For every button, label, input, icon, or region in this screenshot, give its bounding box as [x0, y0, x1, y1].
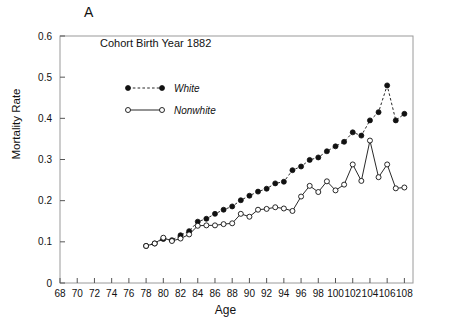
y-tick-label: 0.5 — [38, 72, 52, 83]
data-point-nonwhite — [247, 214, 252, 219]
legend-marker-white — [160, 86, 165, 91]
data-point-nonwhite — [169, 239, 174, 244]
x-tick-label: 104 — [362, 288, 379, 299]
data-point-white — [402, 111, 407, 116]
y-tick-label: 0.2 — [38, 195, 52, 206]
data-point-nonwhite — [178, 236, 183, 241]
x-tick-label: 92 — [261, 288, 273, 299]
data-point-white — [290, 168, 295, 173]
data-point-nonwhite — [195, 223, 200, 228]
x-tick-label: 94 — [278, 288, 290, 299]
x-tick-label: 90 — [244, 288, 256, 299]
x-tick-label: 78 — [141, 288, 153, 299]
series-nonwhite — [144, 138, 407, 248]
x-tick-label: 84 — [192, 288, 204, 299]
data-point-nonwhite — [161, 235, 166, 240]
data-point-nonwhite — [342, 182, 347, 187]
data-point-white — [281, 179, 286, 184]
data-point-white — [376, 110, 381, 115]
data-point-white — [324, 149, 329, 154]
data-point-nonwhite — [204, 223, 209, 228]
data-point-nonwhite — [212, 223, 217, 228]
x-tick-label: 70 — [72, 288, 84, 299]
x-tick-label: 106 — [379, 288, 396, 299]
data-point-white — [333, 144, 338, 149]
x-tick-label: 98 — [313, 288, 325, 299]
data-point-nonwhite — [333, 188, 338, 193]
data-point-nonwhite — [307, 183, 312, 188]
legend-marker-white — [126, 86, 131, 91]
data-point-nonwhite — [367, 138, 372, 143]
data-point-white — [359, 133, 364, 138]
data-point-nonwhite — [316, 190, 321, 195]
x-tick-label: 68 — [54, 288, 66, 299]
data-point-nonwhite — [230, 221, 235, 226]
data-point-white — [350, 130, 355, 135]
data-point-white — [247, 193, 252, 198]
data-point-nonwhite — [281, 206, 286, 211]
figure-panel-a: A Cohort Birth Year 1882 Mortality Rate … — [0, 0, 451, 326]
x-tick-label: 82 — [175, 288, 187, 299]
x-tick-label: 102 — [344, 288, 361, 299]
x-tick-labels: 6870727476788082848688909294969810010210… — [54, 278, 413, 299]
data-point-white — [342, 139, 347, 144]
data-point-nonwhite — [256, 207, 261, 212]
data-point-nonwhite — [324, 179, 329, 184]
x-tick-label: 80 — [158, 288, 170, 299]
legend-label-nonwhite: Nonwhite — [174, 105, 216, 116]
y-tick-label: 0.4 — [38, 113, 52, 124]
data-point-nonwhite — [221, 222, 226, 227]
legend: WhiteNonwhite — [126, 83, 217, 116]
data-point-nonwhite — [393, 186, 398, 191]
data-point-white — [221, 207, 226, 212]
data-point-white — [264, 186, 269, 191]
x-tick-label: 88 — [227, 288, 239, 299]
x-tick-label: 74 — [106, 288, 118, 299]
legend-label-white: White — [174, 83, 200, 94]
data-point-nonwhite — [385, 162, 390, 167]
data-point-white — [316, 155, 321, 160]
data-point-nonwhite — [264, 206, 269, 211]
data-point-white — [393, 118, 398, 123]
x-tick-label: 76 — [123, 288, 135, 299]
x-tick-label: 100 — [327, 288, 344, 299]
legend-marker-nonwhite — [126, 108, 131, 113]
data-point-nonwhite — [273, 205, 278, 210]
data-point-nonwhite — [350, 162, 355, 167]
data-point-white — [307, 157, 312, 162]
x-tick-label: 86 — [209, 288, 221, 299]
data-point-white — [299, 164, 304, 169]
data-point-white — [212, 211, 217, 216]
x-tick-label: 72 — [89, 288, 101, 299]
y-tick-label: 0.3 — [38, 154, 52, 165]
y-tick-label: 0.1 — [38, 236, 52, 247]
data-point-nonwhite — [144, 243, 149, 248]
data-point-white — [385, 83, 390, 88]
data-point-nonwhite — [152, 241, 157, 246]
x-tick-label: 96 — [296, 288, 308, 299]
data-point-white — [367, 118, 372, 123]
chart-plot-area: 00.10.20.30.40.50.6 68707274767880828486… — [0, 0, 451, 326]
data-point-white — [230, 204, 235, 209]
data-point-nonwhite — [402, 185, 407, 190]
data-point-white — [273, 181, 278, 186]
data-point-nonwhite — [299, 194, 304, 199]
data-point-white — [238, 198, 243, 203]
x-tick-label: 108 — [396, 288, 413, 299]
data-point-nonwhite — [359, 178, 364, 183]
data-point-white — [256, 189, 261, 194]
data-point-nonwhite — [376, 175, 381, 180]
data-point-white — [204, 216, 209, 221]
y-tick-labels: 00.10.20.30.40.50.6 — [38, 31, 65, 289]
data-point-nonwhite — [238, 211, 243, 216]
y-tick-label: 0.6 — [38, 31, 52, 42]
data-point-nonwhite — [187, 232, 192, 237]
axes-group — [60, 36, 413, 283]
legend-marker-nonwhite — [160, 108, 165, 113]
series-line-nonwhite — [146, 141, 404, 246]
data-point-nonwhite — [290, 208, 295, 213]
plot-frame — [60, 36, 413, 283]
y-tick-label: 0 — [46, 278, 52, 289]
